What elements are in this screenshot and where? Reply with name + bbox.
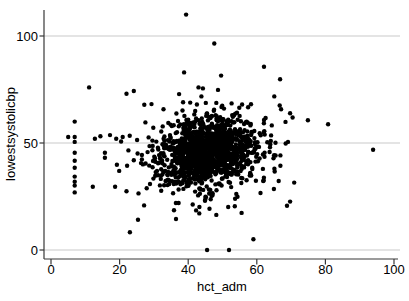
data-point [249,133,253,137]
data-point [182,70,186,74]
data-point [73,190,77,194]
data-point [232,148,236,152]
data-point [176,187,180,191]
data-point [242,165,246,169]
data-point [149,102,153,106]
data-point [169,170,173,174]
data-point [234,142,238,146]
data-point [148,182,152,186]
data-point [250,167,254,171]
data-point [214,117,218,121]
data-point [114,137,118,141]
data-point [159,189,163,193]
data-point [239,176,243,180]
data-point [73,159,77,163]
data-point [228,162,232,166]
data-point [220,119,224,123]
data-point [171,140,175,144]
data-point [171,191,175,195]
data-point [188,100,192,104]
data-point [126,148,130,152]
data-point [235,165,239,169]
data-point [208,174,212,178]
data-point [155,169,159,173]
x-tick-label-20: 20 [112,262,126,277]
data-point [212,41,216,45]
data-point [279,107,283,111]
data-point [198,192,202,196]
data-point [230,135,234,139]
data-point [247,138,251,142]
data-point [151,159,155,163]
data-point [214,101,218,105]
data-point [277,179,281,183]
data-point [254,179,258,183]
data-point [240,102,244,106]
data-point [238,127,242,131]
data-point [272,187,276,191]
data-point [199,156,203,160]
data-point [220,123,224,127]
data-point [150,148,154,152]
data-point [226,130,230,134]
data-point [162,183,166,187]
data-point [170,179,174,183]
data-point [249,144,253,148]
data-point [251,237,255,241]
data-point [205,248,209,252]
data-point [162,134,166,138]
data-point [194,151,198,155]
data-point [278,153,282,157]
data-point [197,211,201,215]
plot-canvas: 050100020406080100 lowestsystolicbp hct_… [0,0,409,301]
data-point [171,148,175,152]
data-point [161,107,165,111]
x-tick-label-0: 0 [47,262,54,277]
data-point [224,151,228,155]
data-point [273,169,277,173]
data-point [151,176,155,180]
data-point [246,105,250,109]
data-point [226,205,230,209]
data-point [194,208,198,212]
data-point [167,139,171,143]
data-point [183,132,187,136]
data-point [192,161,196,165]
data-point [177,148,181,152]
data-point [288,199,292,203]
x-tick-label-60: 60 [250,262,264,277]
data-point [239,181,243,185]
data-point [181,100,185,104]
data-point [119,139,123,143]
data-point [73,180,77,184]
data-point [217,182,221,186]
data-point [73,135,77,139]
data-point [191,176,195,180]
data-point [180,138,184,142]
data-point [290,115,294,119]
data-point [194,129,198,133]
data-point [252,149,256,153]
data-point [245,129,249,133]
data-point [267,150,271,154]
data-point [203,166,207,170]
data-point [262,155,266,159]
data-point [156,161,160,165]
data-point [154,139,158,143]
data-point [227,248,231,252]
data-point [199,123,203,127]
data-point [170,124,174,128]
data-point [128,230,132,234]
data-point [239,211,243,215]
data-point [176,175,180,179]
data-point [206,139,210,143]
data-point [103,151,107,155]
data-point [214,188,218,192]
data-point [219,73,223,77]
data-point [284,141,288,145]
data-point [165,158,169,162]
data-point [140,153,144,157]
data-point [306,118,310,122]
data-point [240,138,244,142]
data-point [262,176,266,180]
